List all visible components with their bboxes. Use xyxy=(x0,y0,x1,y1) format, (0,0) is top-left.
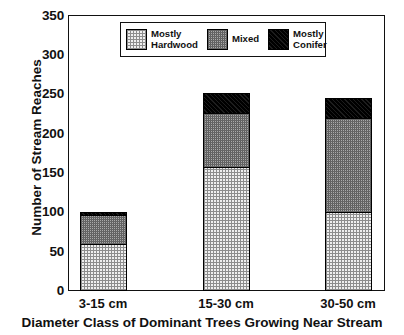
bar-segment-mixed[interactable] xyxy=(203,113,250,168)
bar-segment-hardwood[interactable] xyxy=(203,167,250,291)
x-axis-title: Diameter Class of Dominant Trees Growing… xyxy=(0,315,404,330)
legend-swatch-hardwood-icon xyxy=(126,29,147,50)
bar-segment-hardwood[interactable] xyxy=(325,212,372,291)
bar-segment-conifer[interactable] xyxy=(203,93,250,114)
chart-page: 350 300 250 200 150 100 50 0 Number of S… xyxy=(0,0,404,335)
legend-swatch-mixed-icon xyxy=(207,29,228,50)
legend-label-conifer: Mostly Conifer xyxy=(293,29,327,49)
y-axis-title: Number of Stream Reaches xyxy=(29,33,44,263)
y-tick-label-350: 350 xyxy=(28,8,64,23)
legend-label-hardwood: Mostly Hardwood xyxy=(151,29,198,49)
legend-entry-hardwood[interactable]: Mostly Hardwood xyxy=(126,29,198,50)
bar-segment-mixed[interactable] xyxy=(80,215,127,245)
x-tick-label-1: 15-30 cm xyxy=(171,296,281,311)
legend: Mostly Hardwood Mixed Mostly Conifer xyxy=(120,22,326,57)
legend-entry-conifer[interactable]: Mostly Conifer xyxy=(268,29,327,50)
legend-label-mixed: Mixed xyxy=(232,34,259,44)
x-tick-label-0: 3-15 cm xyxy=(48,296,158,311)
legend-swatch-conifer-icon xyxy=(268,29,289,50)
bar-segment-conifer[interactable] xyxy=(325,98,372,119)
bar-segment-mixed[interactable] xyxy=(325,118,372,213)
x-tick-label-2: 30-50 cm xyxy=(293,296,403,311)
legend-entry-mixed[interactable]: Mixed xyxy=(207,29,259,50)
bar-segment-hardwood[interactable] xyxy=(80,244,127,291)
